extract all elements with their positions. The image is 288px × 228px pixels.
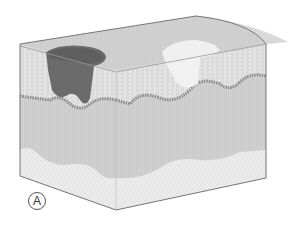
panel-label: A bbox=[28, 192, 46, 210]
